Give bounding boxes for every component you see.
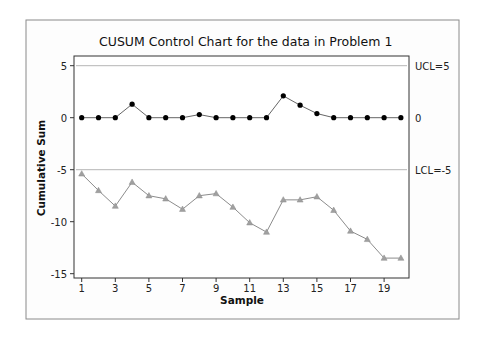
y-tick-label: -15 [51, 269, 67, 280]
data-point-circle [180, 115, 185, 120]
data-point-circle [281, 93, 286, 98]
chart-title: CUSUM Control Chart for the data in Prob… [99, 34, 392, 49]
data-point-circle [365, 115, 370, 120]
x-tick-label: 9 [213, 283, 219, 294]
data-point-circle [113, 115, 118, 120]
reference-line-label: LCL=-5 [415, 165, 451, 176]
x-tick-label: 17 [344, 283, 357, 294]
data-point-circle [382, 115, 387, 120]
reference-line-label: 0 [415, 113, 421, 124]
x-tick-label: 1 [79, 283, 85, 294]
reference-line-label: UCL=5 [415, 61, 450, 72]
data-point-circle [264, 115, 269, 120]
y-tick-label: 0 [61, 113, 67, 124]
x-tick-label: 15 [311, 283, 324, 294]
x-tick-label: 13 [277, 283, 290, 294]
y-tick-label: -10 [51, 217, 67, 228]
data-point-circle [331, 115, 336, 120]
data-point-circle [314, 111, 319, 116]
data-point-circle [96, 115, 101, 120]
data-point-circle [163, 115, 168, 120]
x-axis-label: Sample [220, 294, 264, 306]
x-tick-label: 11 [243, 283, 256, 294]
data-point-circle [230, 115, 235, 120]
data-point-circle [130, 102, 135, 107]
x-tick-label: 5 [146, 283, 152, 294]
data-point-circle [79, 115, 84, 120]
y-axis-label: Cumulative Sum [35, 120, 47, 217]
data-point-circle [197, 112, 202, 117]
y-tick-label: -5 [57, 165, 67, 176]
x-tick-label: 3 [112, 283, 118, 294]
data-point-circle [146, 115, 151, 120]
data-point-circle [298, 103, 303, 108]
cusum-chart: CUSUM Control Chart for the data in Prob… [0, 0, 484, 337]
data-point-circle [247, 115, 252, 120]
data-point-circle [348, 115, 353, 120]
x-tick-label: 19 [378, 283, 391, 294]
x-tick-label: 7 [179, 283, 185, 294]
y-tick-label: 5 [61, 61, 67, 72]
data-point-circle [214, 115, 219, 120]
plot-area [74, 56, 409, 278]
data-point-circle [398, 115, 403, 120]
